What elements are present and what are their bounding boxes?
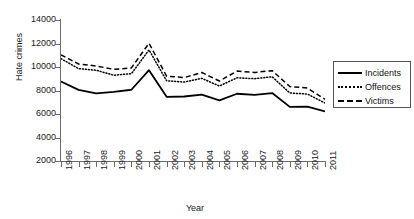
- x-axis-tick-mark: [202, 162, 203, 167]
- x-axis-tick-label: 2003: [188, 150, 197, 170]
- series-lines: [61, 20, 325, 161]
- legend-item-label: Victims: [363, 96, 394, 106]
- y-axis-tick-mark: [55, 114, 61, 115]
- x-axis-tick-label: 2005: [223, 150, 232, 170]
- x-axis-tick-mark: [131, 162, 132, 167]
- x-axis-tick-mark: [167, 162, 168, 167]
- x-axis-tick-label: 1997: [83, 150, 92, 170]
- x-axis-tick-mark: [184, 162, 185, 167]
- y-axis-tick-label: 6000: [22, 109, 56, 118]
- x-axis-tick-label: 2006: [241, 150, 250, 170]
- x-axis-tick-mark: [219, 162, 220, 167]
- x-axis-tick-mark: [237, 162, 238, 167]
- x-axis-tick-mark: [79, 162, 80, 167]
- legend-swatch-dashed-line-icon: [337, 96, 363, 106]
- legend-item: Incidents: [337, 66, 407, 80]
- y-axis-tick-label: 2000: [22, 156, 56, 165]
- hate-crimes-line-chart: Hate crimes 1400012000100008000600040002…: [0, 0, 414, 219]
- x-axis-title: Year: [150, 203, 240, 213]
- legend-item-label: Offences: [363, 82, 401, 92]
- x-axis-tick-mark: [290, 162, 291, 167]
- x-axis-tick-mark: [96, 162, 97, 167]
- x-axis-tick-mark: [255, 162, 256, 167]
- x-axis-tick-mark: [114, 162, 115, 167]
- y-axis-tick-label: 12000: [22, 39, 56, 48]
- plot-area: [61, 20, 325, 161]
- legend-swatch-solid-line-icon: [337, 68, 363, 78]
- y-axis-tick-labels: 1400012000100008000600040002000: [18, 0, 56, 219]
- legend-swatch-dotted-line-icon: [337, 82, 363, 92]
- x-axis-tick-mark: [325, 162, 326, 167]
- y-axis-tick-label: 4000: [22, 133, 56, 142]
- x-axis-tick-label: 2007: [259, 150, 268, 170]
- x-axis-tick-label: 2010: [311, 150, 320, 170]
- legend-item: Victims: [337, 94, 407, 108]
- x-axis-tick-mark: [272, 162, 273, 167]
- x-axis-tick-label: 2008: [276, 150, 285, 170]
- y-axis-tick-mark: [55, 91, 61, 92]
- y-axis-tick-label: 8000: [22, 86, 56, 95]
- y-axis-tick-mark: [55, 20, 61, 21]
- x-axis-tick-mark: [149, 162, 150, 167]
- x-axis-tick-mark: [307, 162, 308, 167]
- x-axis-tick-label: 2002: [171, 150, 180, 170]
- x-axis-tick-label: 1999: [118, 150, 127, 170]
- y-axis-tick-label: 10000: [22, 62, 56, 71]
- legend-item-label: Incidents: [363, 68, 401, 78]
- legend-item: Offences: [337, 80, 407, 94]
- x-axis-tick-label: 2009: [294, 150, 303, 170]
- y-axis-tick-mark: [55, 67, 61, 68]
- chart-legend: Incidents Offences Victims: [333, 61, 411, 108]
- y-axis-tick-label: 14000: [22, 15, 56, 24]
- x-axis-tick-label: 2004: [206, 150, 215, 170]
- x-axis-tick-label: 2011: [329, 151, 338, 170]
- x-axis-tick-label: 1996: [65, 150, 74, 170]
- x-axis-tick-mark: [61, 162, 62, 167]
- x-axis-tick-label: 2001: [153, 150, 162, 170]
- y-axis-tick-mark: [55, 44, 61, 45]
- series-line-incidents: [61, 70, 325, 111]
- x-axis-tick-label: 1998: [100, 150, 109, 170]
- x-axis-tick-label: 2000: [135, 150, 144, 170]
- y-axis-tick-mark: [55, 138, 61, 139]
